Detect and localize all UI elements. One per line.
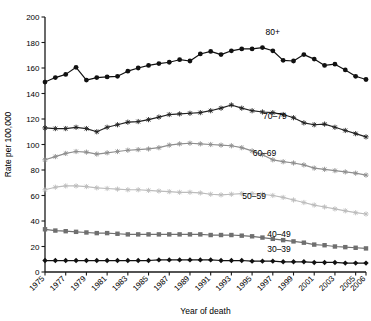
data-point <box>146 232 150 236</box>
data-point <box>53 75 58 80</box>
series-label-30-39: 30–39 <box>267 244 291 254</box>
y-tick-label: 60 <box>31 192 40 201</box>
data-point <box>156 188 161 193</box>
data-point <box>332 260 337 265</box>
data-point <box>94 185 99 190</box>
data-point <box>250 234 254 238</box>
data-point <box>125 148 130 153</box>
data-point <box>135 258 140 263</box>
data-point <box>177 141 182 146</box>
data-point <box>146 258 151 263</box>
data-point <box>146 117 151 122</box>
data-point <box>74 65 79 70</box>
series-line-30-39 <box>45 260 366 263</box>
data-point <box>156 114 161 119</box>
data-point <box>353 246 357 250</box>
data-point <box>363 260 368 265</box>
data-point <box>126 232 130 236</box>
data-point <box>73 149 78 154</box>
data-point <box>229 233 233 237</box>
data-point <box>115 187 120 192</box>
data-point <box>63 183 68 188</box>
data-point <box>136 119 141 124</box>
y-tick-label: 200 <box>26 13 40 22</box>
data-point <box>115 258 120 263</box>
data-point <box>167 60 172 65</box>
y-tick-label: 160 <box>26 64 40 73</box>
data-point <box>125 187 130 192</box>
data-point <box>177 257 182 262</box>
data-point <box>343 208 348 213</box>
data-point <box>208 142 213 147</box>
x-tick-label: 1993 <box>214 274 233 293</box>
data-point <box>260 258 265 263</box>
data-point <box>229 48 234 53</box>
data-point <box>42 258 47 263</box>
data-point <box>63 72 68 77</box>
data-point <box>312 165 317 170</box>
data-point <box>146 63 151 68</box>
data-point <box>125 258 130 263</box>
data-point <box>136 66 141 71</box>
x-tick-label: 1997 <box>255 274 274 293</box>
data-point <box>84 78 89 83</box>
data-point <box>43 80 48 85</box>
series-label-50-59: 50–59 <box>242 191 266 201</box>
data-point <box>167 257 172 262</box>
data-point <box>322 122 327 127</box>
series-line-60-69 <box>45 143 366 175</box>
y-tick-label: 120 <box>26 115 40 124</box>
series-label-70-79: 70–79 <box>263 111 287 121</box>
data-point <box>73 183 78 188</box>
data-point <box>73 258 78 263</box>
data-point <box>105 125 110 130</box>
x-tick-label: 1983 <box>110 274 129 293</box>
data-point <box>198 141 203 146</box>
x-axis-title: Year of death <box>180 306 231 316</box>
chart-container: 0204060801001201401601802001975197719791… <box>0 0 371 321</box>
data-point <box>363 211 368 216</box>
data-point <box>239 46 244 51</box>
data-point <box>74 230 78 234</box>
data-point <box>239 106 244 111</box>
data-point <box>63 258 68 263</box>
data-point <box>177 111 182 116</box>
x-tick-label: 1977 <box>48 274 67 293</box>
data-point <box>353 171 358 176</box>
data-point <box>364 77 369 82</box>
data-point <box>105 150 110 155</box>
data-point <box>94 258 99 263</box>
data-point <box>198 52 203 57</box>
data-point <box>312 202 317 207</box>
data-point <box>218 106 223 111</box>
data-point <box>53 258 58 263</box>
data-point <box>218 258 223 263</box>
data-point <box>198 190 203 195</box>
data-point <box>187 111 192 116</box>
data-point <box>167 112 172 117</box>
data-point <box>229 192 234 197</box>
data-point <box>333 62 338 67</box>
x-tick-label: 1991 <box>193 274 212 293</box>
data-point <box>115 122 120 127</box>
y-tick-label: 20 <box>31 243 40 252</box>
data-point <box>125 69 130 74</box>
data-point <box>353 74 358 79</box>
x-tick-label: 1985 <box>131 274 150 293</box>
data-point <box>208 233 212 237</box>
data-point <box>208 257 213 262</box>
y-tick-label: 100 <box>26 141 40 150</box>
x-tick-label: 1989 <box>172 274 191 293</box>
data-point <box>343 68 348 73</box>
data-point <box>167 189 172 194</box>
data-point <box>249 258 254 263</box>
data-point <box>291 115 296 120</box>
data-point <box>95 231 99 235</box>
data-point <box>229 102 234 107</box>
data-point <box>322 63 327 68</box>
data-point <box>187 257 192 262</box>
series-line-40-49 <box>45 229 366 248</box>
data-point <box>240 233 244 237</box>
data-point <box>312 260 317 265</box>
data-point <box>343 169 348 174</box>
